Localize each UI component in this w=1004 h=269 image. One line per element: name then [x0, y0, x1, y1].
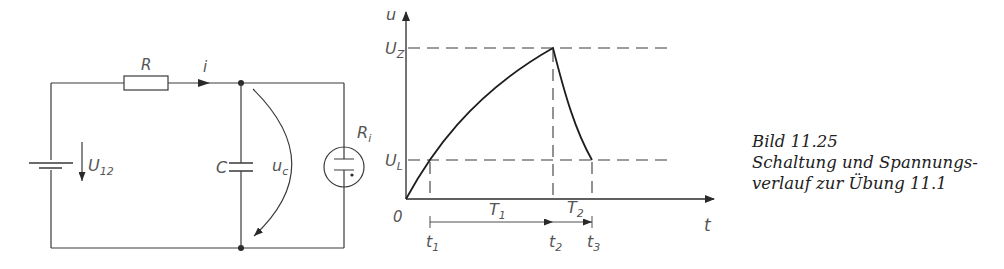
resistor-label: R	[141, 56, 151, 74]
resistor-symbol	[124, 76, 168, 90]
caption-figure-number: Bild 11.25	[752, 131, 978, 152]
lamp-resistance-label: Ri	[357, 123, 371, 145]
origin-label: 0	[393, 208, 403, 226]
source-voltage-label: U12	[88, 156, 114, 178]
current-arrow-icon	[198, 79, 210, 87]
t2-label: t2	[549, 232, 562, 254]
glow-lamp-dot	[350, 173, 353, 176]
interval-T2-label: T2	[567, 198, 584, 220]
capacitor-symbol	[229, 163, 253, 171]
circuit-diagram	[29, 76, 364, 251]
current-label: i	[203, 58, 208, 76]
t1-label: t1	[426, 232, 439, 254]
upper-threshold-label: UZ	[385, 39, 405, 61]
capacitor-label: C	[216, 158, 228, 177]
battery-symbol	[29, 163, 73, 168]
interval-T1-label: T1	[489, 200, 506, 222]
voltage-curve	[406, 48, 592, 199]
y-axis-label: u	[386, 5, 396, 24]
caption-line-3: verlauf zur Übung 11.1	[752, 173, 978, 194]
figure-caption: Bild 11.25 Schaltung und Spannungs- verl…	[752, 131, 978, 194]
cap-voltage-label: uc	[272, 156, 288, 178]
x-axis-label: t	[704, 215, 712, 235]
lower-threshold-label: UL	[385, 151, 403, 173]
voltage-time-graph: u t 0 UZ UL T1 T2 t1 t2 t3	[385, 5, 714, 254]
t3-label: t3	[587, 232, 600, 254]
caption-line-2: Schaltung und Spannungs-	[752, 152, 978, 173]
